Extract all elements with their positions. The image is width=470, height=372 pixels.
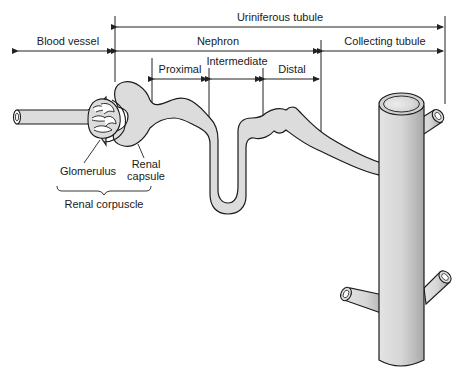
label-renal-capsule-line2: capsule — [127, 170, 165, 182]
label-intermediate: Intermediate — [206, 55, 267, 67]
nephron-diagram: Uriniferous tubule Blood vessel Nephron … — [0, 0, 470, 372]
label-glomerulus: Glomerulus — [60, 165, 117, 177]
collecting-duct — [339, 93, 454, 366]
label-proximal: Proximal — [159, 63, 202, 75]
label-nephron: Nephron — [197, 35, 239, 47]
glomerulus — [88, 99, 126, 142]
renal-corpuscle-brace — [57, 186, 151, 195]
label-uriniferous-tubule: Uriniferous tubule — [237, 11, 323, 23]
label-distal: Distal — [278, 63, 306, 75]
label-collecting-tubule: Collecting tubule — [344, 35, 425, 47]
label-blood-vessel: Blood vessel — [37, 35, 99, 47]
renal-capsule-leader — [138, 144, 144, 158]
label-renal-capsule-line1: Renal — [132, 158, 161, 170]
label-renal-corpuscle: Renal corpuscle — [65, 198, 144, 210]
nephron-tubule — [113, 82, 385, 214]
glomerulus-leader — [84, 140, 100, 163]
